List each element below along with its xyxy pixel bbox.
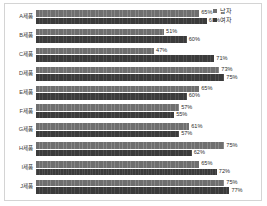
- bar-line: 62%: [36, 150, 257, 157]
- bar-group: 61%57%: [36, 122, 257, 138]
- bar-value-label: 77%: [229, 188, 242, 194]
- category-label: A제품: [9, 14, 36, 20]
- bar-female[interactable]: [36, 169, 217, 176]
- category-label: E제품: [9, 90, 36, 96]
- chart-category-row: D제품73%75%: [9, 66, 257, 82]
- bar-value-label: 60%: [187, 37, 200, 43]
- chart-category-row: B제품51%60%: [9, 28, 257, 44]
- chart-category-row: I제품65%72%: [9, 160, 257, 176]
- bar-female[interactable]: [36, 18, 207, 25]
- bar-line: 75%: [36, 142, 257, 149]
- chart-frame: 남자 여자 A제품65%68%B제품51%60%C제품47%71%D제품73%7…: [4, 3, 262, 201]
- category-label: H제품: [9, 146, 36, 152]
- bar-male[interactable]: [36, 10, 199, 17]
- bar-female[interactable]: [36, 150, 192, 157]
- bar-line: 75%: [36, 74, 257, 81]
- bar-male[interactable]: [36, 142, 224, 149]
- bar-female[interactable]: [36, 74, 224, 81]
- bar-line: 61%: [36, 123, 257, 130]
- bar-male[interactable]: [36, 29, 164, 36]
- category-label: C제품: [9, 52, 36, 58]
- bar-value-label: 72%: [217, 169, 230, 175]
- bar-male[interactable]: [36, 123, 189, 130]
- bar-value-label: 55%: [174, 112, 187, 118]
- bar-value-label: 65%: [199, 161, 212, 167]
- bar-female[interactable]: [36, 55, 214, 62]
- bar-male[interactable]: [36, 180, 224, 187]
- chart-category-row: F제품57%55%: [9, 103, 257, 119]
- chart-category-row: G제품61%57%: [9, 122, 257, 138]
- bar-group: 65%72%: [36, 160, 257, 176]
- bar-value-label: 51%: [164, 29, 177, 35]
- bar-line: 57%: [36, 104, 257, 111]
- square-marker-icon: [213, 18, 217, 22]
- bar-value-label: 71%: [214, 56, 227, 62]
- bar-group: 47%71%: [36, 47, 257, 63]
- bar-group: 75%62%: [36, 141, 257, 157]
- bar-group: 51%60%: [36, 28, 257, 44]
- bar-line: 72%: [36, 169, 257, 176]
- bar-line: 57%: [36, 131, 257, 138]
- bar-group: 57%55%: [36, 103, 257, 119]
- chart-category-row: E제품65%60%: [9, 85, 257, 101]
- bar-group: 75%77%: [36, 179, 257, 195]
- bar-value-label: 60%: [187, 93, 200, 99]
- legend-label-female: 여자: [220, 17, 232, 23]
- bar-value-label: 75%: [224, 143, 237, 149]
- bar-value-label: 47%: [154, 48, 167, 54]
- bar-line: 65%: [36, 161, 257, 168]
- square-marker-icon: [213, 9, 217, 13]
- bar-value-label: 75%: [224, 75, 237, 81]
- legend-label-male: 남자: [220, 8, 232, 14]
- bar-female[interactable]: [36, 36, 187, 43]
- bar-value-label: 62%: [192, 150, 205, 156]
- chart-category-row: H제품75%62%: [9, 141, 257, 157]
- category-label: F제품: [9, 109, 36, 115]
- bar-line: 75%: [36, 180, 257, 187]
- chart-legend: 남자 여자: [213, 8, 257, 23]
- bar-line: 60%: [36, 93, 257, 100]
- bar-value-label: 61%: [189, 124, 202, 130]
- bar-female[interactable]: [36, 187, 229, 194]
- bar-line: 71%: [36, 55, 257, 62]
- bar-value-label: 57%: [179, 131, 192, 137]
- bar-value-label: 75%: [224, 180, 237, 186]
- legend-entry-female[interactable]: 여자: [213, 17, 257, 23]
- category-label: J제품: [9, 184, 36, 190]
- category-label: I제품: [9, 165, 36, 171]
- bar-line: 51%: [36, 29, 257, 36]
- bar-value-label: 57%: [179, 105, 192, 111]
- bar-male[interactable]: [36, 104, 179, 111]
- bar-group: 73%75%: [36, 66, 257, 82]
- category-label: G제품: [9, 127, 36, 133]
- bar-female[interactable]: [36, 131, 179, 138]
- bar-line: 60%: [36, 36, 257, 43]
- bar-male[interactable]: [36, 161, 199, 168]
- bar-male[interactable]: [36, 67, 219, 74]
- bar-line: 47%: [36, 48, 257, 55]
- chart-category-row: J제품75%77%: [9, 179, 257, 195]
- legend-entry-male[interactable]: 남자: [213, 8, 257, 14]
- bar-male[interactable]: [36, 86, 199, 93]
- bar-line: 77%: [36, 187, 257, 194]
- bar-female[interactable]: [36, 112, 174, 119]
- bar-line: 73%: [36, 67, 257, 74]
- bar-value-label: 65%: [199, 86, 212, 92]
- category-label: B제품: [9, 33, 36, 39]
- bar-value-label: 73%: [219, 67, 232, 73]
- bar-line: 55%: [36, 112, 257, 119]
- bar-value-label: 65%: [199, 10, 212, 16]
- category-label: D제품: [9, 71, 36, 77]
- bar-female[interactable]: [36, 93, 187, 100]
- bar-line: 65%: [36, 86, 257, 93]
- plot-area: A제품65%68%B제품51%60%C제품47%71%D제품73%75%E제품6…: [5, 4, 261, 200]
- chart-category-row: C제품47%71%: [9, 47, 257, 63]
- bar-male[interactable]: [36, 48, 154, 55]
- bar-group: 65%60%: [36, 85, 257, 101]
